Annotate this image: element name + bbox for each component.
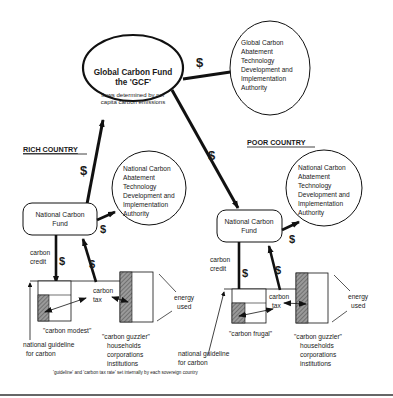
rich-guzzler-label: "carbon guzzler"	[102, 333, 151, 341]
dollar-icon: $	[208, 148, 216, 163]
poor-guzzler-label: "carbon guzzler"	[294, 333, 343, 341]
dollar-icon: $	[289, 233, 295, 245]
carbon-fund-diagram: Global Carbon Fund the 'GCF' flows deter…	[0, 0, 393, 398]
poor-fund-line-1: National Carbon	[224, 218, 273, 225]
rich-energy-line-1: energy	[174, 294, 195, 302]
rich-guzzler-hatch	[120, 272, 132, 322]
rich-fund-line-1: National Carbon	[35, 211, 84, 218]
rich-modest-label: "carbon modest"	[43, 327, 92, 334]
poor-credit-line-2: credit	[210, 265, 226, 272]
gcf-note-line-2: capita carbon emissions	[101, 99, 165, 105]
poor-guideline-pointer	[208, 292, 224, 355]
rich-guzzler-type-3: institutions	[107, 360, 139, 367]
gcf-subtitle: the 'GCF'	[115, 78, 151, 87]
global-carbon-fund: Global Carbon Fund the 'GCF' flows deter…	[83, 35, 183, 105]
rich-country-section: RICH COUNTRY National Carbon Fund Nation…	[23, 145, 195, 367]
rich-guideline-line-1: national guideline	[23, 341, 75, 349]
dollar-icon: $	[89, 258, 95, 270]
poor-credit-line-1: carbon	[210, 256, 230, 263]
poor-country-section: POOR COUNTRY National Carbon Fund Nation…	[178, 138, 369, 367]
dollar-icon: $	[80, 163, 88, 178]
rich-tax-line-1: carbon	[93, 287, 113, 294]
rich-fund-to-authority-arrow	[97, 212, 115, 220]
dollar-icon: $	[196, 55, 204, 70]
poor-guzzler-type-1: households	[300, 342, 334, 349]
rich-energy-line-2: used	[177, 303, 192, 310]
footnote: 'guideline' and 'carbon tax rate' set in…	[53, 370, 198, 375]
rich-fund-line-2: Fund	[52, 220, 68, 227]
dollar-icon: $	[242, 267, 248, 279]
poor-guzzler-type-2: corporations	[300, 351, 337, 359]
rich-guzzler-type-2: corporations	[107, 351, 144, 359]
rich-tax-line-2: tax	[93, 296, 102, 303]
poor-guideline-line-2: for carbon	[178, 359, 208, 366]
rich-credit-line-1: carbon	[30, 249, 50, 256]
gcf-note-line-1: flows determined by per	[101, 92, 165, 98]
rich-to-gcf-arrow	[87, 120, 103, 204]
poor-country-heading: POOR COUNTRY	[247, 138, 306, 147]
poor-guideline-line-1: national guideline	[178, 350, 230, 358]
poor-guzzler-type-3: institutions	[300, 360, 332, 367]
dollar-icon: $	[100, 223, 106, 235]
poor-energy-line-1: energy	[348, 293, 369, 301]
dollar-icon: $	[275, 264, 281, 276]
rich-guzzler-type-1: households	[107, 342, 141, 349]
poor-fund-line-2: Fund	[241, 227, 257, 234]
global-authority: Global Carbon Abatement Technology Devel…	[230, 21, 310, 115]
poor-tax-line-2: tax	[272, 302, 281, 309]
poor-guzzler-hatch	[296, 273, 308, 323]
poor-tax-line-1: carbon	[269, 293, 289, 300]
rich-guideline-line-2: for carbon	[26, 350, 56, 357]
rich-modest-hatch	[38, 295, 49, 321]
poor-frugal-hatch	[232, 303, 245, 323]
rich-country-heading: RICH COUNTRY	[23, 145, 78, 154]
poor-fund-to-authority-arrow	[282, 222, 299, 230]
dollar-icon: $	[59, 255, 65, 267]
poor-energy-line-2: used	[351, 302, 366, 309]
poor-national-carbon-fund	[217, 210, 282, 242]
poor-frugal-label: "carbon frugal"	[229, 330, 273, 338]
rich-credit-line-2: credit	[30, 258, 46, 265]
rich-national-carbon-fund	[23, 203, 97, 235]
gcf-title: Global Carbon Fund	[94, 68, 173, 77]
